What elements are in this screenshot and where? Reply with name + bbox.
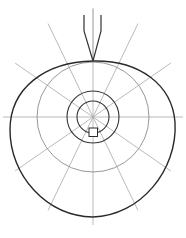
center-square-marker [89, 128, 98, 137]
web-ornament-diagram [0, 0, 186, 238]
egg-outline [10, 61, 175, 217]
spoke-line [15, 63, 93, 117]
stem-left-line [84, 15, 93, 61]
spoke-line [15, 117, 93, 171]
stem-right-line [93, 15, 101, 61]
spoke-line [93, 117, 171, 171]
spoke-line [93, 63, 171, 117]
